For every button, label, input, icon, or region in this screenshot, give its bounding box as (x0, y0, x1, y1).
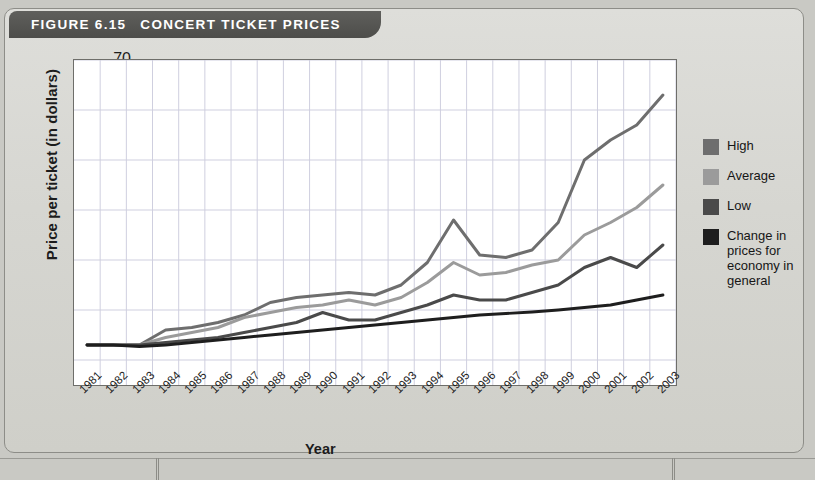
legend-swatch (703, 139, 719, 155)
legend-swatch (703, 199, 719, 215)
page-column-divider (158, 458, 159, 480)
y-axis-title: Price per ticket (in dollars) (43, 25, 60, 305)
page-column-divider (672, 458, 673, 480)
legend-label: Change in prices for economy in general (727, 228, 801, 288)
page-divider (0, 458, 815, 459)
legend-label: Low (727, 198, 751, 213)
figure-header-tab: FIGURE 6.15 CONCERT TICKET PRICES (9, 11, 381, 38)
plot-area (73, 59, 677, 386)
legend-swatch (703, 229, 719, 245)
chart-legend: HighAverageLowChange in prices for econo… (703, 138, 803, 301)
chart-svg (74, 60, 676, 385)
page-bottom-rules (0, 458, 815, 480)
x-axis-title: Year (305, 441, 336, 457)
legend-item: Change in prices for economy in general (703, 228, 803, 288)
legend-label: Average (727, 168, 775, 183)
legend-label: High (727, 138, 754, 153)
legend-item: High (703, 138, 803, 155)
legend-item: Low (703, 198, 803, 215)
figure-title: CONCERT TICKET PRICES (140, 17, 341, 32)
legend-item: Average (703, 168, 803, 185)
figure-card: FIGURE 6.15 CONCERT TICKET PRICES Price … (4, 8, 804, 453)
legend-swatch (703, 169, 719, 185)
chart-area: Price per ticket (in dollars) 1020304050… (5, 38, 805, 453)
x-tick-labels: 1981198219831984198519861987198819891990… (73, 387, 677, 443)
page-column-divider (156, 458, 157, 480)
page-column-divider (674, 458, 675, 480)
